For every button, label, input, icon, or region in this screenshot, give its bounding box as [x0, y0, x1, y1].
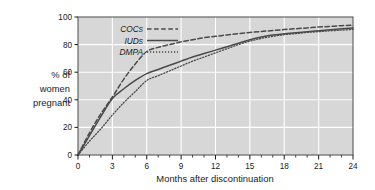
y-axis-title-line-3: pregnant	[33, 97, 70, 108]
chart-figure: 020406080100 03691215182124 % of women p…	[0, 0, 375, 190]
legend-label-cocs: COCs	[120, 24, 144, 34]
x-tick-label: 15	[245, 162, 255, 171]
x-tick-label: 24	[348, 162, 358, 171]
y-tick-label: 80	[63, 41, 73, 50]
x-axis-major-ticks	[78, 155, 353, 160]
x-tick-label: 18	[280, 162, 290, 171]
y-tick-label: 100	[58, 13, 72, 22]
x-tick-label: 6	[144, 162, 149, 171]
legend-label-dmpa: DMPA	[119, 47, 143, 57]
y-axis-title: % of women pregnant	[33, 69, 70, 108]
y-tick-label: 0	[67, 151, 72, 160]
legend-label-iuds: IUDs	[124, 36, 143, 46]
x-axis-title: Months after discontinuation	[156, 173, 273, 184]
line-chart: 020406080100 03691215182124 % of women p…	[0, 0, 375, 190]
x-tick-label: 9	[179, 162, 184, 171]
x-tick-label: 0	[76, 162, 81, 171]
x-tick-label: 21	[314, 162, 324, 171]
x-axis-tick-labels: 03691215182124	[76, 162, 358, 171]
x-tick-label: 12	[211, 162, 221, 171]
y-axis-title-line-1: % of	[51, 69, 70, 80]
y-axis-title-line-2: women	[39, 83, 70, 94]
y-axis-ticks	[75, 17, 79, 155]
x-tick-label: 3	[110, 162, 115, 171]
y-tick-label: 20	[63, 123, 73, 132]
